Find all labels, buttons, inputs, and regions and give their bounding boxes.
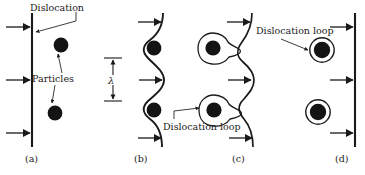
panel-label-b: (b) [134,153,148,164]
particles-leader-upper [58,54,62,73]
stress-arrows-d [330,27,353,133]
panel-a: Dislocation Particles (a) [6,2,84,164]
particle [147,103,162,118]
dislocation-loop-leader-c [174,108,199,119]
panel-b: λ (b) [104,13,164,164]
particle [205,40,220,55]
panel-label-d: (d) [335,153,349,164]
particle [206,102,221,117]
dislocation-leader-a [36,12,76,32]
particles-label-a: Particles [32,73,74,84]
dislocation-loop-upper-d [310,38,334,62]
dislocation-loop-label-c: Dislocation loop [163,121,241,132]
panel-d: Dislocation loop (d) [256,13,355,164]
particles-leader-lower [52,85,55,103]
particle [147,41,162,56]
lambda-label: λ [107,75,114,86]
particle [48,106,63,121]
panel-label-c: (c) [232,153,245,164]
particle [54,38,69,53]
dislocation-loop-label-d: Dislocation loop [256,25,334,36]
orowan-mechanism-figure: Dislocation Particles (a) λ (b) [0,0,365,175]
dislocation-loop-lower-d [306,100,330,124]
stress-arrows-a [6,27,30,133]
dislocation-loop-leader-d [281,39,308,50]
panel-c: Dislocation loop (c) [163,13,254,164]
dislocation-label-a: Dislocation [30,2,84,13]
panel-label-a: (a) [25,153,38,164]
